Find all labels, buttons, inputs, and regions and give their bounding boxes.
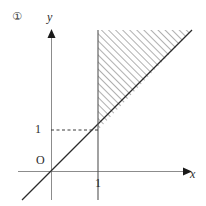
y-tick-label-one: 1 [35,123,41,135]
y-axis-arrow-icon [48,29,56,38]
y-axis [48,29,56,200]
x-tick-label-one: 1 [95,177,101,189]
x-axis-label: x [190,168,195,180]
shaded-region [98,30,192,130]
y-axis-label: y [47,11,52,23]
coordinate-plane-graphic [0,0,206,206]
figure-number-marker: ① [12,11,22,22]
math-figure-panel: ① y x O 1 1 [0,0,206,206]
x-axis [18,168,192,176]
origin-label: O [36,154,45,166]
